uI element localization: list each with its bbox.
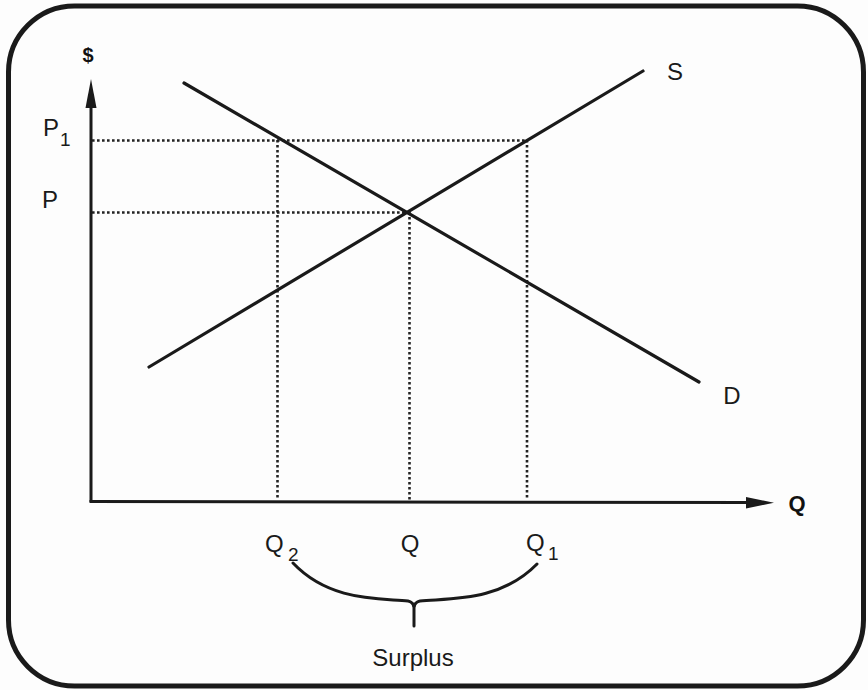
supply-curve	[149, 71, 643, 367]
q1-label-subscript: 1	[548, 543, 559, 564]
y-axis-arrowhead-icon	[86, 79, 97, 108]
surplus-label: Surplus	[372, 644, 453, 671]
q1-label-main: Q	[526, 529, 545, 556]
price-label-p1: P 1	[43, 114, 71, 150]
demand-label: D	[723, 382, 740, 409]
quantity-label-q1: Q 1	[526, 529, 559, 564]
x-axis-arrowhead-icon	[746, 497, 774, 509]
guide-lines	[92, 140, 527, 500]
x-axis-label: Q	[788, 491, 805, 516]
p1-label-main: P	[43, 114, 59, 141]
supply-label: S	[667, 58, 683, 85]
q-label: Q	[401, 530, 420, 557]
demand-curve	[184, 83, 699, 382]
p1-label-subscript: 1	[60, 129, 71, 150]
x-axis	[90, 502, 753, 503]
supply-demand-diagram: $ Q S D P 1 P Q 2 Q Q 1 Surplus	[0, 0, 868, 690]
q2-label-main: Q	[265, 530, 284, 557]
axes	[90, 100, 753, 503]
y-axis-label: $	[82, 44, 93, 66]
quantity-label-q2: Q 2	[265, 530, 299, 565]
p-label: P	[42, 186, 58, 213]
surplus-brace-icon	[293, 563, 537, 607]
frame-border	[9, 6, 864, 686]
